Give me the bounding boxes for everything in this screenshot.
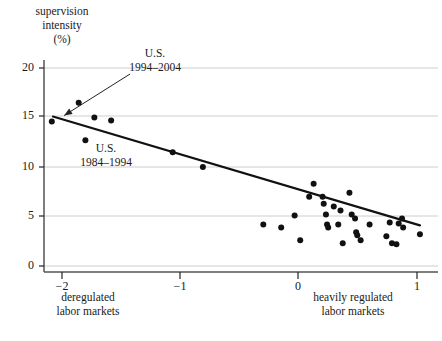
x-axis-tick-marks [62, 272, 417, 279]
xright-line-1: labor markets [278, 304, 428, 318]
y-tick-label-5: 5 [6, 208, 34, 223]
ytitle-line-2: (%) [8, 32, 116, 46]
x-axis-left-title: deregulatedlabor markets [18, 290, 158, 318]
data-points [49, 100, 423, 248]
y-tick-label-20: 20 [6, 60, 34, 75]
y-tick-label-10: 10 [6, 159, 34, 174]
y-tick-label-15: 15 [6, 108, 34, 123]
ann1-line-1: 1994–2004 [96, 60, 214, 74]
x-tick-label-0: 0 [284, 279, 312, 294]
y-axis-title: supervisionintensity(%) [8, 4, 116, 46]
x-tick-label--1: −1 [166, 279, 194, 294]
y-tick-label-0: 0 [6, 258, 34, 273]
ann1-line-0: U.S. [96, 46, 214, 60]
ann2-line-1: 1984–1994 [58, 155, 154, 169]
x-tick-label-1: 1 [403, 279, 431, 294]
annotation-us-1984-1994: U.S.1984–1994 [58, 141, 154, 169]
x-axis-right-title: heavily regulatedlabor markets [278, 290, 428, 318]
ann2-line-0: U.S. [58, 141, 154, 155]
xleft-line-0: deregulated [18, 290, 158, 304]
ytitle-line-1: intensity [8, 18, 116, 32]
annotation-us-1994-2004: U.S.1994–2004 [96, 46, 214, 74]
xleft-line-1: labor markets [18, 304, 158, 318]
ytitle-line-0: supervision [8, 4, 116, 18]
x-tick-label--2: −2 [48, 279, 76, 294]
annotation-leader-line [64, 74, 130, 116]
regression-line [53, 117, 420, 226]
